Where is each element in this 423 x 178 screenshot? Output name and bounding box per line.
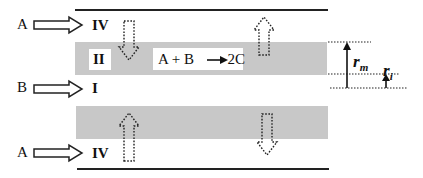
- inlet-arrow-top-icon: [34, 17, 82, 33]
- flux-arrow-up-bottom-icon: [119, 113, 139, 161]
- flux-arrow-down-bottom-icon: [257, 114, 277, 155]
- flux-arrow-up-top-icon: [254, 17, 274, 55]
- inlet-arrow-middle-icon: [34, 81, 82, 97]
- rm-dimension-arrow-icon: [343, 42, 351, 88]
- ri-dimension-arrow-icon: [382, 74, 390, 88]
- reaction-arrow-icon: [207, 56, 228, 64]
- flux-arrow-down-top-icon: [119, 21, 139, 60]
- diagram-graphics: [0, 0, 423, 178]
- inlet-arrow-bottom-icon: [34, 145, 82, 161]
